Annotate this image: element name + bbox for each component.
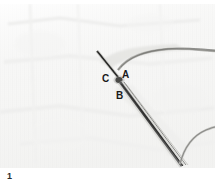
plate-label-c: C — [102, 74, 109, 84]
photograph-image — [0, 4, 215, 168]
plate-label-a: A — [122, 70, 129, 80]
figure-container: A B C 1 — [0, 0, 215, 185]
photograph-plate: A B C — [0, 4, 215, 168]
plate-label-b: B — [116, 91, 123, 101]
figure-number: 1 — [7, 172, 12, 181]
